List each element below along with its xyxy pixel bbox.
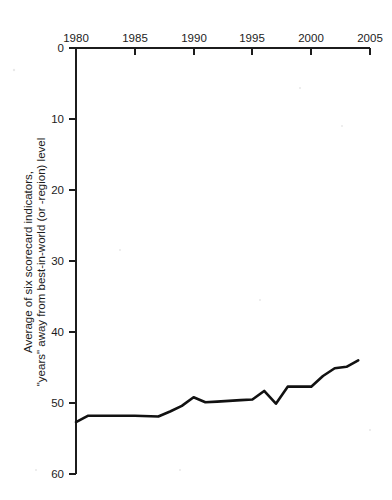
x-axis: 1980 1985 1990 1995 2000 2005	[63, 32, 383, 55]
y-tick-label-60: 60	[51, 468, 64, 480]
data-line-scorecard-average	[76, 360, 358, 422]
y-tick-label-0: 0	[58, 42, 64, 54]
x-tick-label-1990: 1990	[181, 32, 207, 44]
chart-container: 1980 1985 1990 1995 2000 2005 0	[0, 0, 392, 500]
y-axis-title-line2: "years" away from best-in-world (or -reg…	[35, 138, 47, 386]
y-tick-label-20: 20	[51, 184, 64, 196]
y-axis-title: Average of six scorecard indicators, "ye…	[22, 138, 47, 386]
x-tick-label-2000: 2000	[298, 32, 324, 44]
y-tick-label-50: 50	[51, 397, 64, 409]
paper-noise	[13, 39, 371, 471]
x-axis-tick-labels: 1980 1985 1990 1995 2000 2005	[63, 32, 383, 44]
x-tick-label-1995: 1995	[239, 32, 265, 44]
plot-area	[76, 360, 358, 422]
y-axis-ticks	[69, 48, 76, 474]
x-tick-label-2005: 2005	[357, 32, 383, 44]
x-axis-ticks	[76, 48, 370, 55]
y-tick-label-30: 30	[51, 255, 64, 267]
y-tick-label-10: 10	[51, 113, 64, 125]
y-axis-title-line1: Average of six scorecard indicators,	[22, 171, 34, 353]
y-axis-tick-labels: 0 10 20 30 40 50 60	[51, 42, 64, 480]
x-tick-label-1980: 1980	[63, 32, 89, 44]
line-chart: 1980 1985 1990 1995 2000 2005 0	[0, 0, 392, 500]
x-tick-label-1985: 1985	[122, 32, 148, 44]
y-tick-label-40: 40	[51, 326, 64, 338]
y-axis: 0 10 20 30 40 50 60	[51, 42, 76, 480]
